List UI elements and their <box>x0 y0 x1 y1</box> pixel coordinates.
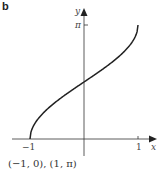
chart-plot: y π −1 1 x <box>0 0 162 176</box>
x-tick-label-1: 1 <box>136 142 142 152</box>
x-tick-label-neg1: −1 <box>22 142 35 152</box>
y-axis-arrow-icon <box>81 8 88 16</box>
y-tick-label-pi: π <box>74 20 82 30</box>
y-axis-label: y <box>74 6 81 16</box>
x-axis-label: x <box>151 142 156 152</box>
points-caption: (−1, 0), (1, π) <box>8 158 77 169</box>
